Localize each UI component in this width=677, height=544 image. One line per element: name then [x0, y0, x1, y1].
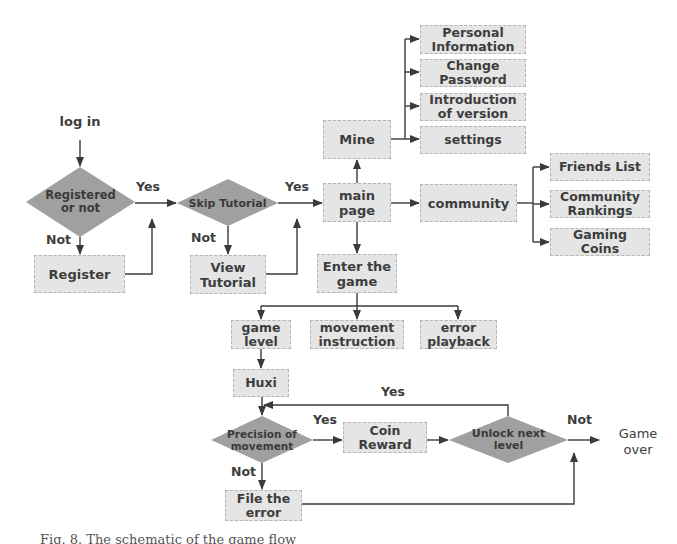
- edge-label-skip-no: Not: [191, 231, 216, 245]
- community-box: community: [420, 184, 517, 222]
- view-tutorial-box: View Tutorial: [190, 255, 266, 294]
- settings-box: settings: [420, 126, 526, 154]
- file-the-error-box: File the error: [225, 490, 302, 521]
- error-playback-box: error playback: [420, 320, 497, 349]
- game-over-terminal: Game over: [606, 426, 670, 458]
- game-level-box: game level: [231, 320, 291, 349]
- huxi-box: Huxi: [233, 369, 289, 397]
- edge-label-registered-yes: Yes: [136, 180, 160, 194]
- register-box: Register: [34, 255, 125, 293]
- main-page-box: main page: [323, 183, 391, 222]
- edge-label-precision-yes: Yes: [313, 413, 337, 427]
- edge-label-unlock-yes: Yes: [381, 385, 405, 399]
- enter-game-box: Enter the game: [317, 254, 397, 293]
- coin-reward-box: Coin Reward: [343, 422, 427, 453]
- mine-box: Mine: [323, 120, 391, 159]
- edge-label-registered-no: Not: [46, 233, 71, 247]
- login-start-label: log in: [52, 114, 108, 130]
- gaming-coins-box: Gaming Coins: [550, 228, 650, 256]
- change-password-box: Change Password: [420, 59, 526, 87]
- edge-label-skip-yes: Yes: [285, 180, 309, 194]
- personal-information-box: Personal Information: [420, 25, 526, 54]
- friends-list-box: Friends List: [550, 153, 650, 181]
- edge-label-precision-no: Not: [231, 465, 256, 479]
- figure-caption: Fig. 8. The schematic of the game flow: [40, 532, 660, 544]
- introduction-of-version-box: Introduction of version: [420, 93, 526, 121]
- movement-instruction-box: movement instruction: [310, 320, 404, 349]
- community-rankings-box: Community Rankings: [550, 190, 650, 218]
- edge-label-unlock-no: Not: [567, 413, 592, 427]
